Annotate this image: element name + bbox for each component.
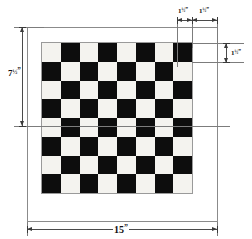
dimension-label-border-margin: 1½” <box>199 7 209 15</box>
dimension-cap-top-mid <box>192 17 193 24</box>
board-square-light-r7c5 <box>117 156 136 175</box>
board-square-light-r6c8 <box>173 137 192 156</box>
board-square-dark-r4c1 <box>42 99 61 118</box>
extension-line-right-lower <box>192 62 244 63</box>
dimension-cap-right-lower <box>223 62 230 63</box>
board-square-dark-r3c6 <box>136 81 155 100</box>
board-square-dark-r6c1 <box>42 137 61 156</box>
board-square-dark-r4c7 <box>155 99 174 118</box>
board-square-light-r8c2 <box>61 174 80 193</box>
board-square-light-r2c4 <box>98 62 117 81</box>
dimension-label-square-width: 1½” <box>178 7 188 15</box>
board-square-light-r8c6 <box>136 174 155 193</box>
dimension-label-half-height: 7½” <box>7 68 22 78</box>
board-square-dark-r6c7 <box>155 137 174 156</box>
board-square-light-r2c2 <box>61 62 80 81</box>
board-square-light-r7c1 <box>42 156 61 175</box>
dimension-cap-top-left <box>177 17 178 24</box>
dimension-label-overall-width: 15” <box>113 224 129 235</box>
board-square-dark-r8c7 <box>155 174 174 193</box>
board-square-light-r4c2 <box>61 99 80 118</box>
board-square-light-r1c1 <box>42 43 61 62</box>
board-square-dark-r2c3 <box>80 62 99 81</box>
board-square-light-r6c4 <box>98 137 117 156</box>
board-square-dark-r1c4 <box>98 43 117 62</box>
board-square-dark-r7c8 <box>173 156 192 175</box>
board-square-light-r5c1 <box>42 118 61 137</box>
board-square-dark-r7c6 <box>136 156 155 175</box>
board-square-light-r5c7 <box>155 118 174 137</box>
board-square-light-r3c3 <box>80 81 99 100</box>
extension-line-left-middle <box>14 126 230 127</box>
board-square-light-r6c2 <box>61 137 80 156</box>
board-square-light-r3c7 <box>155 81 174 100</box>
board-square-light-r2c6 <box>136 62 155 81</box>
board-square-dark-r6c5 <box>117 137 136 156</box>
extension-line-right-upper <box>192 43 244 44</box>
board-square-dark-r7c4 <box>98 156 117 175</box>
checkerboard-grid <box>42 43 192 193</box>
board-square-light-r8c8 <box>173 174 192 193</box>
board-square-light-r8c4 <box>98 174 117 193</box>
board-square-dark-r6c3 <box>80 137 99 156</box>
board-square-dark-r8c5 <box>117 174 136 193</box>
dimension-cap-bottom-right <box>217 226 218 233</box>
board-square-light-r1c3 <box>80 43 99 62</box>
board-square-dark-r1c2 <box>61 43 80 62</box>
board-square-light-r1c5 <box>117 43 136 62</box>
board-square-dark-r3c8 <box>173 81 192 100</box>
dimension-cap-top-right <box>217 17 218 24</box>
board-square-dark-r2c1 <box>42 62 61 81</box>
board-square-dark-r3c2 <box>61 81 80 100</box>
board-square-light-r1c7 <box>155 43 174 62</box>
extension-line-top-right <box>217 20 218 60</box>
extension-line-top-left <box>177 20 178 67</box>
board-square-light-r3c1 <box>42 81 61 100</box>
board-square-light-r3c5 <box>117 81 136 100</box>
board-square-light-r4c4 <box>98 99 117 118</box>
board-square-light-r4c8 <box>173 99 192 118</box>
board-square-dark-r2c7 <box>155 62 174 81</box>
dimension-cap-left-bottom <box>19 126 26 127</box>
board-square-light-r7c3 <box>80 156 99 175</box>
board-square-dark-r2c5 <box>117 62 136 81</box>
board-square-dark-r1c6 <box>136 43 155 62</box>
board-square-light-r7c7 <box>155 156 174 175</box>
board-square-light-r5c3 <box>80 118 99 137</box>
dimension-cap-right-upper <box>223 43 230 44</box>
board-square-dark-r5c4 <box>98 118 117 137</box>
board-square-dark-r5c2 <box>61 118 80 137</box>
board-square-dark-r7c2 <box>61 156 80 175</box>
dimension-cap-left-top <box>19 27 26 28</box>
board-square-dark-r4c3 <box>80 99 99 118</box>
board-square-light-r5c5 <box>117 118 136 137</box>
board-square-dark-r5c8 <box>173 118 192 137</box>
board-square-light-r4c6 <box>136 99 155 118</box>
board-square-dark-r3c4 <box>98 81 117 100</box>
dimension-cap-bottom-left <box>27 226 28 233</box>
board-square-dark-r4c5 <box>117 99 136 118</box>
board-square-dark-r8c3 <box>80 174 99 193</box>
board-square-dark-r5c6 <box>136 118 155 137</box>
dimension-line-half-height <box>22 27 23 126</box>
drawing-canvas: 1½” 1½” 1½” 7½” 15” <box>0 0 252 239</box>
board-square-light-r6c6 <box>136 137 155 156</box>
dimension-label-square-height: 1½” <box>231 49 241 57</box>
board-square-dark-r8c1 <box>42 174 61 193</box>
